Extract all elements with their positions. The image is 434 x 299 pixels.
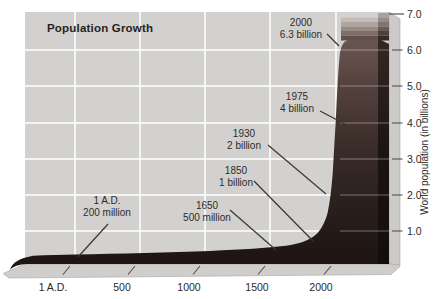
platform-3d (3, 264, 400, 278)
growth-area-side (378, 38, 389, 264)
projection-bands (341, 13, 389, 41)
chart-canvas (0, 0, 434, 299)
population-growth-chart: Population Growth 2000 6.3 billion 1975 … (0, 0, 434, 299)
